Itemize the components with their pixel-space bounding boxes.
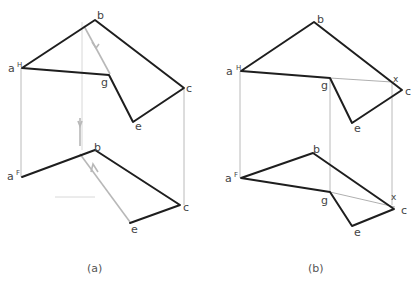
top-view-outline-b: [241, 22, 402, 123]
label-a-sup: H: [236, 64, 241, 72]
front-view-outline-b: [241, 153, 394, 226]
label-c: c: [401, 204, 407, 217]
label-g: g: [321, 79, 328, 92]
label-c: c: [405, 85, 411, 98]
label-c: c: [186, 82, 192, 95]
label-a-sup: H: [17, 61, 22, 69]
label-b: b: [313, 143, 320, 156]
label-e: e: [135, 120, 142, 133]
label-b: b: [317, 13, 324, 26]
label-g: g: [321, 194, 328, 207]
label-a: a: [226, 65, 233, 78]
label-g: g: [101, 76, 108, 89]
sight-arrow-top: [84, 26, 110, 74]
label-e: e: [354, 122, 361, 135]
line-g-x-front: [330, 192, 395, 207]
label-a-sup: F: [16, 169, 20, 177]
label-a: a: [225, 172, 232, 185]
label-x: x: [391, 192, 397, 202]
label-e: e: [131, 223, 138, 236]
label-e: e: [354, 226, 361, 239]
figure-a: a H b g c e a F b c e (a): [7, 9, 192, 275]
label-c: c: [183, 201, 189, 214]
caption-a: (a): [87, 262, 102, 275]
top-view-outline-a: [22, 20, 184, 122]
label-x: x: [393, 74, 399, 84]
label-a-sup: F: [234, 171, 238, 179]
caption-b: (b): [308, 262, 324, 275]
label-b: b: [97, 9, 104, 22]
front-view-outline-a: [22, 150, 180, 223]
sight-arrow-front: [80, 154, 130, 222]
line-g-x-top: [330, 78, 392, 82]
sight-arrow-vertical: [78, 118, 82, 146]
label-b: b: [94, 141, 101, 154]
figure-b: a H b g x c e a F b g x c e (b): [225, 13, 411, 275]
label-a: a: [7, 170, 14, 183]
orthographic-diagram: a H b g c e a F b c e (a) a H b g x c e: [0, 0, 419, 282]
label-a: a: [8, 62, 15, 75]
